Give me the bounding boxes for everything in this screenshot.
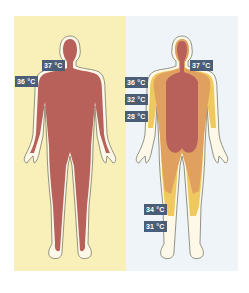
temperature-label: 36 °C <box>15 76 38 87</box>
warm-environment-panel: 37 °C 36 °C <box>14 16 126 271</box>
warm-body-figure <box>14 16 126 271</box>
cold-environment-panel: 37 °C 36 °C 32 °C 28 °C 34 °C 31 °C <box>126 16 238 271</box>
temperature-label: 37 °C <box>190 60 213 71</box>
temperature-label: 37 °C <box>42 60 65 71</box>
cold-body-figure <box>126 16 238 271</box>
temperature-label: 34 °C <box>144 204 167 215</box>
temperature-label: 31 °C <box>144 221 167 232</box>
core-zone <box>166 41 198 153</box>
temperature-label: 28 °C <box>125 111 148 122</box>
temperature-label: 32 °C <box>125 94 148 105</box>
temperature-label: 36 °C <box>125 77 148 88</box>
